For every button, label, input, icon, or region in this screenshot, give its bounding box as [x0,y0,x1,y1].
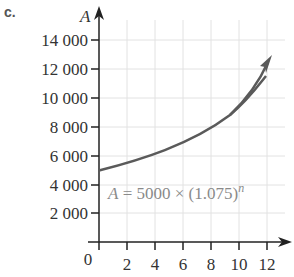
x-tick-label: 4 [151,255,160,274]
y-tick-label: 8 000 [50,118,88,137]
chart: 14 000 12 000 10 000 8 000 6 000 4 000 2… [0,0,294,277]
y-tick-label: 6 000 [50,147,88,166]
axes [88,14,284,250]
y-tick-label: 4 000 [50,176,88,195]
y-tick-label: 10 000 [41,89,88,108]
y-axis-label: A [79,7,91,26]
equation-annotation: A = 5000 × (1.075)n [107,181,244,203]
x-tick-label: 12 [259,255,276,274]
y-tick-label: 14 000 [41,31,88,50]
origin-label: 0 [84,250,93,269]
y-tick-label: 12 000 [41,60,88,79]
x-tick-label: 6 [179,255,188,274]
x-tick-label: 10 [231,255,248,274]
y-tick-label: 2 000 [50,204,88,223]
x-tick-label: 8 [207,255,216,274]
x-tick-label: 2 [123,255,132,274]
grid [99,20,285,242]
